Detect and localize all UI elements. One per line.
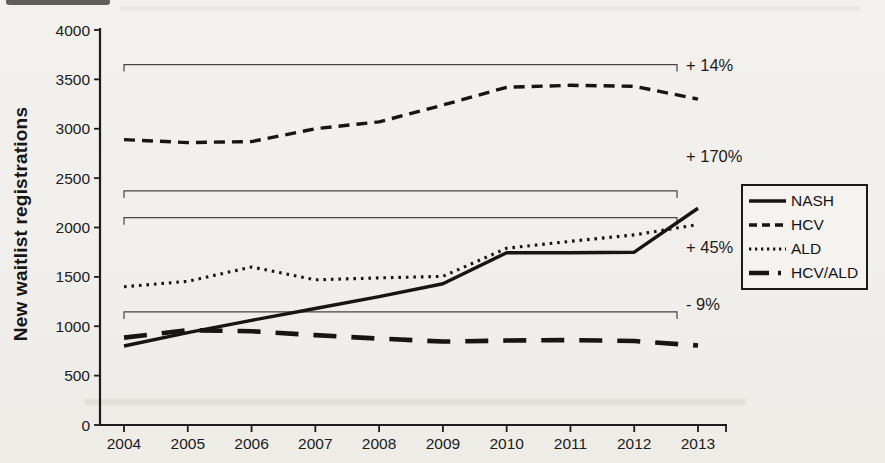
- x-tick-label: 2006: [234, 435, 268, 452]
- x-tick-label: 2011: [554, 435, 587, 452]
- series-line-hcv: [124, 85, 698, 142]
- x-tick-label: 2004: [107, 435, 142, 452]
- legend-item-ald: ALD: [748, 240, 861, 258]
- legend-item-hcv: HCV: [748, 216, 861, 234]
- y-tick-label: 4000: [56, 22, 91, 39]
- change-bracket: [124, 312, 677, 319]
- x-tick-label: 2007: [298, 435, 332, 452]
- y-tick-label: 3000: [56, 120, 91, 137]
- legend-item-nash: NASH: [748, 192, 861, 210]
- nash-solid-line-icon: [748, 195, 788, 207]
- axis: [100, 28, 727, 425]
- ald-dotted-line-icon: [748, 243, 788, 255]
- x-tick-label: 2005: [171, 435, 205, 452]
- x-tick-label: 2013: [681, 435, 715, 452]
- legend-label: ALD: [791, 240, 821, 258]
- percent-change-label: + 170%: [686, 147, 743, 165]
- percent-change-label: - 9%: [686, 295, 720, 313]
- scanned-figure: New waitlist registrations 0500100015002…: [0, 0, 885, 463]
- y-tick-label: 3500: [56, 71, 91, 88]
- legend-label: HCV: [791, 216, 824, 234]
- legend-label: NASH: [791, 192, 834, 210]
- legend-item-hcv-ald: HCV/ALD: [748, 264, 861, 282]
- percent-change-label: + 14%: [686, 56, 734, 74]
- y-tick-label: 0: [81, 417, 90, 434]
- y-tick-label: 500: [64, 367, 90, 384]
- hcv-ald-dash-dot-line-icon: [748, 267, 788, 279]
- change-bracket: [124, 65, 677, 72]
- y-tick-label: 1500: [56, 268, 91, 285]
- y-tick-label: 2000: [56, 219, 91, 236]
- x-tick-label: 2009: [426, 435, 460, 452]
- series-line-nash: [124, 208, 698, 346]
- legend: NASH HCV ALD HCV/ALD: [741, 184, 868, 290]
- change-bracket: [124, 218, 677, 225]
- x-tick-label: 2008: [362, 435, 396, 452]
- percent-change-label: + 45%: [686, 238, 734, 256]
- y-tick-label: 2500: [56, 170, 91, 187]
- change-bracket: [124, 191, 677, 198]
- x-tick-label: 2010: [489, 435, 524, 452]
- y-tick-label: 1000: [56, 318, 91, 335]
- series-line-hcv-ald: [124, 330, 698, 345]
- x-tick-label: 2012: [617, 435, 651, 452]
- hcv-dashed-line-icon: [748, 219, 788, 231]
- legend-label: HCV/ALD: [791, 264, 858, 282]
- series-line-ald: [124, 225, 698, 287]
